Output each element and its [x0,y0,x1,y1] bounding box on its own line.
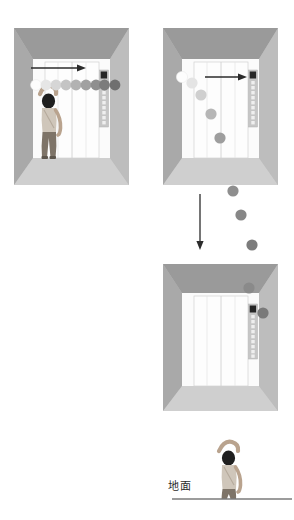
ceiling [14,28,129,59]
person-observer [219,442,241,499]
ground-scene [160,434,294,506]
panel-display [250,306,256,313]
figure-canvas: 地面 [0,0,294,520]
elevator-control-panel[interactable] [100,70,109,127]
connector-arrow [180,192,280,266]
floor [163,386,278,411]
panel-3-graphic [163,264,278,411]
panel-2 [163,28,278,185]
ground-label: 地面 [168,481,192,492]
falling-ball-2 [235,209,246,220]
elevator-control-panel[interactable] [249,70,258,127]
floor [14,158,129,185]
ceiling [163,264,278,293]
panel-2-graphic [163,28,278,185]
panel-display [250,72,256,79]
falling-ball-3 [246,239,257,250]
panel-3 [163,264,278,411]
panel-1-graphic [14,28,129,185]
ball-trail-horizontal [31,80,121,91]
downward-transition-arrow [180,192,280,262]
ceiling [163,28,278,59]
ground-scene-graphic [160,434,294,506]
elevator-control-panel[interactable] [249,304,258,359]
panel-display [101,72,107,79]
floor [163,158,278,185]
panel-1 [14,28,129,185]
